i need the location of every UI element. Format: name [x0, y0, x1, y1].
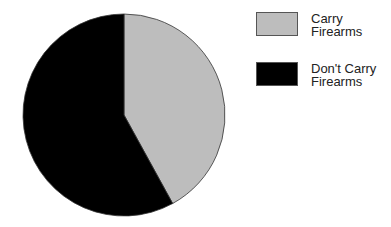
legend-label-carry: Carry Firearms: [311, 12, 391, 38]
legend-label-dont-carry: Don't Carry Firearms: [311, 62, 391, 88]
legend-swatch-carry: [256, 12, 298, 36]
legend-swatch-dont-carry: [256, 62, 298, 86]
